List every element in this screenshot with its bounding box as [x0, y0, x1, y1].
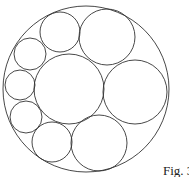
figure-caption: Fig. 3	[163, 163, 189, 177]
inner-circle-top-middle	[40, 12, 80, 52]
inner-circle-upper-left	[14, 38, 46, 70]
outer-circle	[3, 6, 169, 172]
inner-circle-bottom-middle	[32, 122, 72, 162]
inner-circle-right-large	[103, 60, 167, 124]
circle-packing-diagram	[0, 0, 189, 177]
inner-circle-left	[5, 70, 35, 100]
inner-circle-center-large	[34, 54, 104, 124]
inner-circle-bottom-right	[71, 115, 127, 171]
inner-circle-top-right	[79, 9, 135, 65]
